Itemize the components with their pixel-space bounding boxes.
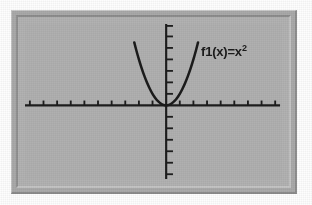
function-label-base: f1(x)=x — [201, 44, 242, 59]
function-label: f1(x)=x2 — [201, 44, 247, 58]
screenshot-root: f1(x)=x2 — [0, 0, 312, 205]
function-label-exponent: 2 — [242, 43, 247, 53]
frame-inner-bevel: f1(x)=x2 — [16, 15, 291, 188]
calculator-graph-frame: f1(x)=x2 — [11, 10, 297, 194]
